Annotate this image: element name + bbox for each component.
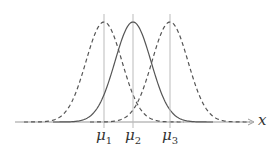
normal-distributions-diagram: x μ1 μ2 μ3: [0, 0, 279, 159]
x-axis-label: x: [258, 113, 266, 128]
mu1-label: μ1: [96, 128, 112, 146]
mu3-label: μ3: [162, 128, 178, 146]
mu2-label: μ2: [125, 128, 141, 146]
